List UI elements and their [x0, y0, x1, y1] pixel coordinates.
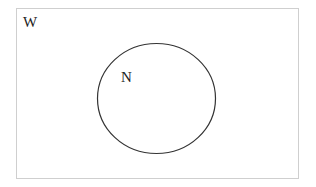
universe-label: W	[23, 15, 37, 30]
set-n-label: N	[121, 70, 132, 85]
venn-diagram	[0, 0, 316, 187]
